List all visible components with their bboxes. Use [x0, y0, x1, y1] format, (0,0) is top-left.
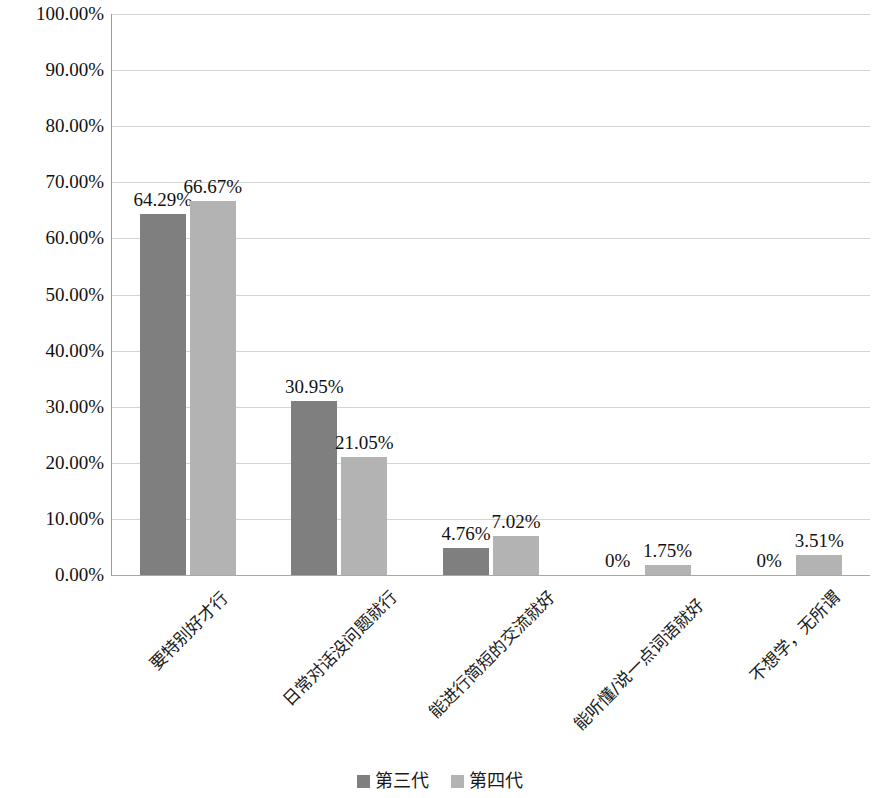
- y-axis-tick-label: 70.00%: [0, 172, 104, 191]
- y-axis-tick-label: 60.00%: [0, 228, 104, 247]
- x-axis-category-label: 要特别好才行: [146, 588, 232, 674]
- legend-swatch-icon: [357, 775, 370, 788]
- bar: [645, 565, 691, 575]
- y-axis-tick-label: 50.00%: [0, 285, 104, 304]
- bar: [796, 555, 842, 575]
- legend-item[interactable]: 第四代: [451, 772, 523, 790]
- x-axis-category-label: 能进行简短的交流就好: [425, 588, 559, 722]
- bar-value-label: 1.75%: [618, 541, 718, 560]
- legend-label: 第三代: [375, 772, 429, 790]
- x-axis-category-label: 能听懂/说一点词语就好: [570, 596, 708, 734]
- gridline: [112, 126, 870, 127]
- bar: [341, 457, 387, 575]
- legend-item[interactable]: 第三代: [357, 772, 429, 790]
- bar-chart: 100.00%90.00%80.00%70.00%60.00%50.00%40.…: [0, 0, 880, 798]
- bar: [190, 201, 236, 575]
- bar: [140, 214, 186, 575]
- x-axis-baseline: [112, 575, 870, 576]
- legend-swatch-icon: [451, 775, 464, 788]
- y-axis-tick-label: 10.00%: [0, 509, 104, 528]
- bar-value-label: 30.95%: [264, 377, 364, 396]
- bar-value-label: 7.02%: [466, 512, 566, 531]
- bar-value-label: 66.67%: [163, 177, 263, 196]
- legend-label: 第四代: [469, 772, 523, 790]
- y-axis-tick-label: 90.00%: [0, 60, 104, 79]
- bar-value-label: 21.05%: [314, 433, 414, 452]
- y-axis-tick-label: 100.00%: [0, 4, 104, 23]
- x-axis-category-label: 不想学，无所谓: [746, 588, 844, 686]
- chart-legend: 第三代第四代: [0, 772, 880, 790]
- bar: [493, 536, 539, 575]
- bar: [443, 548, 489, 575]
- y-axis-tick-label: 40.00%: [0, 341, 104, 360]
- y-axis-tick-label: 20.00%: [0, 453, 104, 472]
- x-axis-category-label: 日常对话没问题就行: [279, 588, 401, 710]
- y-axis-tick-label: 30.00%: [0, 397, 104, 416]
- y-axis-tick-labels: 100.00%90.00%80.00%70.00%60.00%50.00%40.…: [0, 0, 104, 798]
- bar-value-label: 3.51%: [769, 531, 869, 550]
- bar: [291, 401, 337, 575]
- gridline: [112, 70, 870, 71]
- y-axis-tick-label: 0.00%: [0, 565, 104, 584]
- y-axis-tick-label: 80.00%: [0, 116, 104, 135]
- gridline: [112, 14, 870, 15]
- plot-area: 64.29%66.67%30.95%21.05%4.76%7.02%0%1.75…: [112, 14, 870, 575]
